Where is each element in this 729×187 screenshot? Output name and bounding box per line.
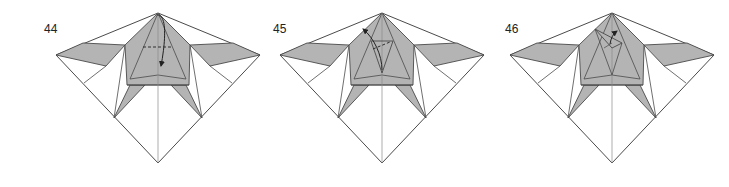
step-45-diagram <box>280 13 484 163</box>
diagram-canvas <box>0 0 729 187</box>
step-label-45: 45 <box>273 22 286 36</box>
origami-diagram-sequence: 44 45 46 <box>0 0 729 187</box>
step-label-44: 44 <box>44 22 57 36</box>
step-46-diagram <box>510 13 714 163</box>
step-44-diagram <box>56 13 260 163</box>
step-label-46: 46 <box>505 22 518 36</box>
